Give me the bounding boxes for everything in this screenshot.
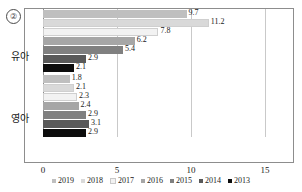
x-tick-label: 15 — [261, 165, 270, 175]
category-label-infant: 영아 — [0, 110, 40, 125]
bar — [43, 129, 86, 137]
x-tick-label: 5 — [115, 165, 120, 175]
bar-row: 2.3 — [43, 93, 265, 101]
bar-value-label: 11.2 — [211, 17, 225, 26]
legend-swatch — [228, 179, 232, 183]
x-tick-label: 10 — [187, 165, 196, 175]
legend-label: 2018 — [87, 176, 103, 185]
bar-value-label: 2.3 — [79, 91, 89, 100]
plot-area: 9.711.27.86.25.42.92.11.82.12.32.42.93.1… — [43, 9, 265, 137]
legend-item[interactable]: 2016 — [141, 176, 163, 185]
bar — [43, 84, 74, 92]
figure-number-marker: ② — [6, 9, 21, 24]
chart-figure: ② 유아 영아 9.711.27.86.25.42.92.11.82.12.32… — [0, 0, 302, 192]
legend-item[interactable]: 2013 — [228, 176, 250, 185]
legend-swatch — [81, 179, 85, 183]
bar-row: 5.4 — [43, 46, 265, 54]
bar-value-label: 2.9 — [88, 109, 98, 118]
legend-label: 2013 — [234, 176, 250, 185]
legend-swatch — [52, 179, 56, 183]
bar — [43, 93, 77, 101]
bar-value-label: 5.4 — [125, 44, 135, 53]
legend-item[interactable]: 2017 — [110, 176, 134, 185]
bar-value-label: 2.9 — [88, 127, 98, 136]
bar — [43, 19, 209, 27]
legend-item[interactable]: 2019 — [52, 176, 74, 185]
bar-row: 2.9 — [43, 111, 265, 119]
gridline — [265, 9, 266, 137]
legend-label: 2016 — [147, 176, 163, 185]
bar-group: 1.82.12.32.42.93.12.9 — [43, 75, 265, 138]
bar — [43, 46, 123, 54]
bar-row: 9.7 — [43, 10, 265, 18]
bar-row: 2.4 — [43, 102, 265, 110]
legend-label: 2014 — [205, 176, 221, 185]
bar — [43, 120, 89, 128]
bar-value-label: 2.1 — [76, 82, 86, 91]
bar-value-label: 2.4 — [81, 100, 91, 109]
bar-group: 9.711.27.86.25.42.92.1 — [43, 10, 265, 73]
bar-value-label: 3.1 — [91, 118, 101, 127]
legend-item[interactable]: 2015 — [170, 176, 192, 185]
legend-item[interactable]: 2014 — [199, 176, 221, 185]
bar-value-label: 7.8 — [160, 26, 170, 35]
bar-row: 6.2 — [43, 37, 265, 45]
bar-row: 11.2 — [43, 19, 265, 27]
bar — [43, 102, 79, 110]
legend-label: 2019 — [58, 176, 74, 185]
bar — [43, 37, 135, 45]
bar-value-label: 9.7 — [189, 8, 199, 17]
bar-row: 2.1 — [43, 64, 265, 72]
x-tick-label: 0 — [41, 165, 46, 175]
bar-value-label: 6.2 — [137, 35, 147, 44]
bar-value-label: 2.1 — [76, 62, 86, 71]
bar — [43, 111, 86, 119]
category-label-toddler: 유아 — [0, 48, 40, 63]
chart-legend: 2019201820172016201520142013 — [0, 176, 302, 185]
bar — [43, 64, 74, 72]
legend-swatch — [170, 179, 174, 183]
legend-swatch — [141, 179, 145, 183]
bar-value-label: 1.8 — [72, 73, 82, 82]
legend-label: 2017 — [118, 176, 134, 185]
legend-item[interactable]: 2018 — [81, 176, 103, 185]
bar — [43, 10, 187, 18]
legend-swatch — [199, 179, 203, 183]
bar-row: 3.1 — [43, 120, 265, 128]
bar — [43, 75, 70, 83]
bar-value-label: 2.9 — [88, 53, 98, 62]
bar-row: 2.1 — [43, 84, 265, 92]
legend-label: 2015 — [176, 176, 192, 185]
bar-row: 7.8 — [43, 28, 265, 36]
legend-swatch — [110, 178, 116, 184]
bar-row: 2.9 — [43, 129, 265, 137]
